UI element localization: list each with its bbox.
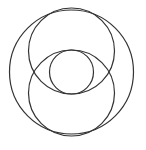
background	[0, 0, 146, 150]
circles-diagram	[0, 0, 146, 150]
